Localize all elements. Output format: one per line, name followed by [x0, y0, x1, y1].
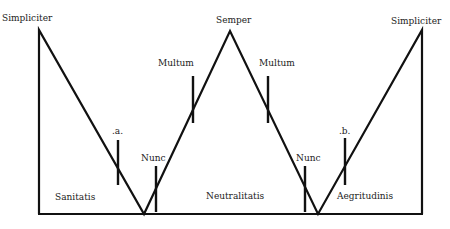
latitude-diagram: Simpliciter Semper Simpliciter Multum Mu…: [0, 0, 450, 229]
label-neutralitatis: Neutralitatis: [206, 192, 264, 201]
label-mark-a: .a.: [112, 127, 123, 136]
label-mark-b: .b.: [339, 127, 350, 136]
label-aegritudinis: Aegritudinis: [337, 192, 393, 201]
label-nunc-right: Nunc: [296, 154, 321, 163]
label-simpliciter-right: Simpliciter: [391, 17, 441, 26]
label-simpliciter-left: Simpliciter: [2, 14, 52, 23]
label-semper: Semper: [216, 16, 251, 25]
label-multum-left: Multum: [158, 59, 194, 68]
label-sanitatis: Sanitatis: [55, 193, 95, 202]
main-zigzag-line: [39, 30, 422, 214]
label-multum-right: Multum: [259, 59, 295, 68]
label-nunc-left: Nunc: [141, 154, 166, 163]
